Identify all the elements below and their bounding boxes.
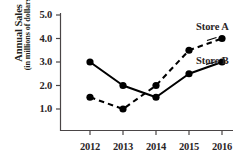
- x-tick-label-2015: 2015: [179, 142, 199, 153]
- data-point: [119, 105, 126, 112]
- data-point: [86, 94, 93, 101]
- data-point: [152, 82, 159, 89]
- data-point: [185, 70, 192, 77]
- x-tick-label-2014: 2014: [146, 142, 166, 153]
- data-point: [218, 35, 225, 42]
- x-axis-ticks: [90, 131, 222, 136]
- series-line-store-b: [90, 62, 222, 97]
- series-a-leader-line: [207, 38, 217, 41]
- y-tick-label-5: 5.0: [16, 10, 52, 21]
- y-tick-label-3: 3.0: [16, 57, 52, 68]
- x-tick-label-2016: 2016: [212, 142, 232, 153]
- y-axis-ticks: [56, 15, 61, 109]
- line-chart: 5.0 4.0 3.0 2.0 1.0 2012 2013 2014 2015 …: [0, 0, 249, 162]
- data-point: [86, 58, 93, 65]
- data-point: [152, 94, 159, 101]
- data-point: [185, 47, 192, 54]
- y-tick-label-2: 2.0: [16, 80, 52, 91]
- y-tick-label-1: 1.0: [16, 104, 52, 115]
- data-point: [119, 82, 126, 89]
- x-tick-label-2013: 2013: [113, 142, 133, 153]
- y-tick-label-4: 4.0: [16, 33, 52, 44]
- series-label-store-b: Store B: [196, 56, 229, 67]
- series-label-store-a: Store A: [196, 22, 229, 33]
- x-tick-label-2012: 2012: [80, 142, 100, 153]
